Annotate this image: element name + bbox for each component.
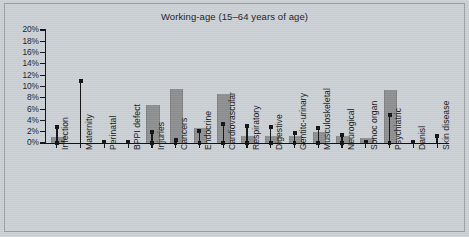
x-axis-tick-label: Endocrine xyxy=(203,111,213,150)
x-axis-tick-label: BPPI defect xyxy=(132,104,142,150)
x-axis-tick-label: Maternity xyxy=(84,114,94,150)
x-axis-tick-label: Musculoskeletal xyxy=(322,88,332,150)
x-axis-tick-label: Psychiatric xyxy=(393,108,403,150)
x-axis-tick-label: Gentitc-urinary xyxy=(298,93,308,150)
x-axis-tick-label: Infection xyxy=(60,117,70,150)
x-axis-tick-label: Danisl xyxy=(417,126,427,150)
x-axis-tick-label: Respiratory xyxy=(251,106,261,151)
x-axis-tick-label: Cancers xyxy=(179,118,189,150)
x-axis-tick-label: Cardiovascular xyxy=(227,92,237,150)
x-axis-tick-label: Perinatal xyxy=(108,116,118,150)
x-axis-tick-labels: InfectionMaternityPerinatalBPPI defectIn… xyxy=(0,0,469,237)
chart-title: Working-age (15–64 years of age) xyxy=(0,11,469,22)
x-axis-tick-label: Skin disease xyxy=(441,101,451,150)
x-axis-tick-label: Digestive xyxy=(274,114,284,150)
chart-figure: Working-age (15–64 years of age) 20%18%1… xyxy=(0,0,469,237)
x-axis-tick-label: Injuries xyxy=(156,122,166,150)
x-axis-tick-label: Sonoc organ xyxy=(369,101,379,150)
x-axis-tick-label: Neurogical xyxy=(346,108,356,150)
